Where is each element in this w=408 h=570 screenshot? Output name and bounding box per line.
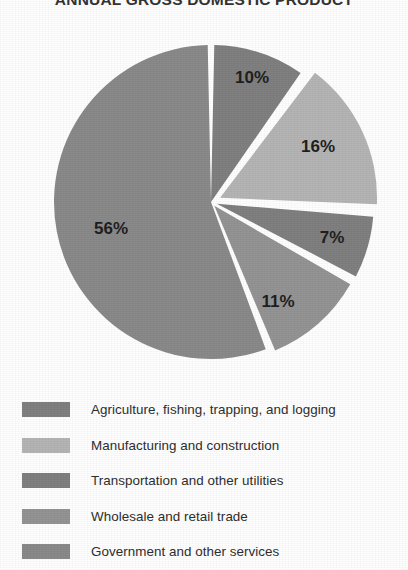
- legend-item-label: Manufacturing and construction: [91, 438, 279, 453]
- legend-swatch-icon: [22, 438, 70, 453]
- legend-item-government[interactable]: Government and other services: [22, 534, 394, 570]
- pie-slice-value-label: 11%: [261, 292, 294, 311]
- legend-swatch-icon: [22, 509, 70, 524]
- pie-slice-value-label: 7%: [320, 228, 345, 247]
- legend-item-manufacturing[interactable]: Manufacturing and construction: [22, 428, 394, 464]
- pie-slice-group: [54, 45, 377, 359]
- pie-slice-value-label: 16%: [301, 137, 335, 156]
- pie-chart: 10%16%7%11%56%: [0, 0, 408, 380]
- legend-swatch-icon: [22, 473, 70, 488]
- pie-chart-svg: 10%16%7%11%56%: [0, 0, 408, 380]
- legend-item-agriculture[interactable]: Agriculture, fishing, trapping, and logg…: [22, 392, 394, 428]
- legend-swatch-icon: [22, 402, 70, 417]
- legend-item-label: Wholesale and retail trade: [91, 509, 248, 524]
- legend-item-wholesale[interactable]: Wholesale and retail trade: [22, 499, 394, 535]
- legend-item-label: Government and other services: [91, 544, 279, 559]
- legend-item-transportation[interactable]: Transportation and other utilities: [22, 463, 394, 499]
- legend: Agriculture, fishing, trapping, and logg…: [22, 392, 394, 570]
- pie-slice-value-label: 56%: [94, 219, 128, 238]
- legend-item-label: Transportation and other utilities: [91, 473, 284, 488]
- legend-swatch-icon: [22, 544, 70, 559]
- legend-item-label: Agriculture, fishing, trapping, and logg…: [91, 402, 336, 417]
- pie-slice-value-label: 10%: [235, 68, 269, 87]
